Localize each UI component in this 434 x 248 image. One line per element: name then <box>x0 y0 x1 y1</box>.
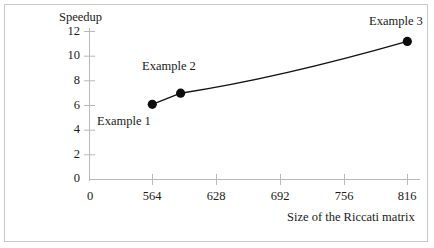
annotation-example-1: Example 1 <box>97 115 151 128</box>
y-tick-label-4: 4 <box>58 123 80 136</box>
y-tick-label-12: 12 <box>58 25 80 38</box>
x-tick-label-628: 628 <box>200 190 232 203</box>
x-tick-label-756: 756 <box>328 190 360 203</box>
data-point-example-1 <box>148 100 157 109</box>
y-tick-label-8: 8 <box>58 74 80 87</box>
y-tick-label-0: 0 <box>58 172 80 185</box>
x-tick-label-564: 564 <box>136 190 168 203</box>
y-tick-label-10: 10 <box>58 49 80 62</box>
x-tick-label-816: 816 <box>391 190 423 203</box>
annotation-example-3: Example 3 <box>369 15 423 28</box>
annotation-example-2: Example 2 <box>142 60 196 73</box>
x-axis-title: Size of the Riccati matrix <box>287 211 415 224</box>
data-point-example-3 <box>403 37 412 46</box>
x-tick-label-0: 0 <box>74 190 106 203</box>
y-tick-label-2: 2 <box>58 148 80 161</box>
y-axis-title: Speedup <box>59 11 102 24</box>
y-tick-label-6: 6 <box>58 99 80 112</box>
x-tick-label-692: 692 <box>264 190 296 203</box>
data-point-example-2 <box>176 89 185 98</box>
